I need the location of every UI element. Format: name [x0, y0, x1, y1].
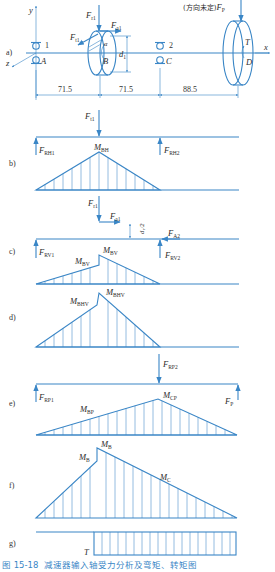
y-axis-label: y: [28, 5, 33, 15]
panel-c-label: c): [9, 247, 16, 256]
panel-b-label: b): [9, 159, 16, 168]
force-frh2-label: FRH2: [163, 145, 180, 156]
z-axis-label: z: [5, 58, 10, 68]
point-d-label: D: [245, 57, 253, 67]
moment-mbhv-minus-label: MBHV: [69, 296, 89, 307]
hatch-g: [102, 532, 230, 555]
offset-label: d₁/2: [138, 223, 145, 234]
force-fp-label: (方向未定)FP: [183, 2, 225, 13]
hatch-f: [45, 453, 232, 519]
panel-f-label: f): [9, 481, 15, 490]
panel-g-torque-diagram: g) T: [9, 532, 236, 557]
bearing-1-label: 1: [45, 41, 49, 50]
hatch-b: [45, 152, 153, 190]
panel-f-total-moment: f) MB MB MC: [9, 439, 237, 518]
point-b-label: B: [103, 56, 108, 66]
force-frp1-label: FRP1: [38, 392, 54, 403]
moment-mb-plus-label: MB: [100, 439, 112, 450]
panel-d-label: d): [9, 313, 16, 322]
panel-b-horizontal-plane: b) Ft1 FRH1 FRH2 MBH: [9, 110, 239, 190]
x-axis-label: x: [263, 42, 268, 52]
panel-e-label: e): [9, 399, 16, 408]
force-frv2-label: FRV2: [164, 250, 180, 261]
torque-t-label: T: [245, 37, 251, 47]
force-fp-label-e: FP: [224, 396, 233, 407]
moment-mcp-label: MCP: [162, 390, 177, 401]
panel-a-shaft-layout: a) y z x 1 A α B: [5, 0, 270, 100]
moment-diagram-f: [36, 448, 237, 518]
moment-diagram-b: [36, 152, 160, 190]
panel-d-combined-moment: d) MBHV MBHV: [9, 287, 239, 347]
force-frh1-label: FRH1: [38, 145, 55, 156]
hatch-d: [45, 301, 153, 347]
figure-caption: 图 15-18减速器输入轴受力分析及弯矩、转矩图: [2, 560, 197, 570]
force-fr1-label-c: Fr1: [87, 198, 98, 209]
moment-mbv-minus-label: MBV: [74, 256, 90, 267]
panel-c-vertical-plane: c) Fr1 Fa1 d₁/2 FA2 FRV1 FRV2 MBV MBV: [9, 196, 239, 284]
force-frv1-label: FRV1: [38, 247, 54, 258]
gear-angle-label: α: [104, 40, 108, 47]
moment-diagram-d: [36, 293, 160, 347]
point-c-label: C: [166, 56, 172, 66]
panel-a-label: a): [6, 48, 13, 57]
panel-g-label: g): [9, 539, 16, 548]
force-fa1-label-c: Fa1: [109, 211, 121, 222]
force-fa2-label: FA2: [167, 228, 180, 239]
moment-mc-label: MC: [159, 472, 171, 483]
force-ft1-label: Ft1: [69, 32, 80, 43]
dim-cd-value: 88.5: [183, 85, 197, 94]
moment-diagram-c: [36, 255, 160, 284]
torque-t-label-g: T: [84, 547, 90, 557]
bearing-2-label: 2: [169, 41, 173, 50]
moment-mbhv-plus-label: MBHV: [105, 287, 125, 298]
moment-mbv-plus-label: MBV: [102, 245, 118, 256]
d1-label: d1: [119, 49, 126, 60]
dim-bc-value: 71.5: [119, 85, 133, 94]
moment-mbp-label: MBP: [79, 404, 94, 415]
force-ft1-label-b: Ft1: [84, 111, 95, 122]
shaft-analysis-figure: a) y z x 1 A α B: [0, 0, 275, 572]
torque-rect: [94, 532, 236, 555]
panel-e-pulley-force-moment: e) FRP2 FRP1 FP MBP MCP: [9, 354, 238, 435]
point-a-label: A: [40, 56, 47, 66]
moment-mb-minus-label: MB: [78, 452, 90, 463]
force-frp2-label: FRP2: [162, 359, 178, 370]
force-fa1-label: Fa1: [110, 20, 122, 31]
force-fr1-label: Fr1: [85, 10, 96, 21]
dim-ab-value: 71.5: [58, 85, 72, 94]
moment-mbh-label: MBH: [93, 142, 109, 153]
